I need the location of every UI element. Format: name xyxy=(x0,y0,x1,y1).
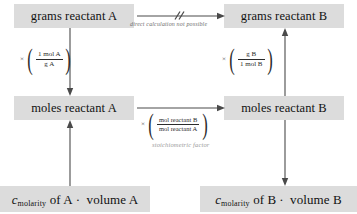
factor-stoichiometric-times: × xyxy=(141,120,145,128)
factor-molar-mass-b-numerator: g B xyxy=(244,50,258,59)
factor-stoichiometric-fraction: mol reactant B mol reactant A xyxy=(156,116,199,133)
arrow-moles-b-to-grams-b xyxy=(279,28,291,96)
factor-molar-mass-b-denominator: 1 mol B xyxy=(238,60,265,69)
node-concentration-b-expression: cmolarity of B· volume B xyxy=(215,193,342,206)
right-paren-icon: ) xyxy=(267,50,273,69)
concentration-b-operator: · xyxy=(279,192,283,207)
node-moles-reactant-a-label: moles reactant A xyxy=(31,102,117,115)
factor-molar-mass-b: × ( g B 1 mol B ) xyxy=(222,50,275,69)
concentration-a-subscript: molarity xyxy=(18,199,47,208)
stoichiometry-flowchart: grams reactant A grams reactant B moles … xyxy=(0,0,357,214)
left-paren-icon: ( xyxy=(28,50,34,69)
factor-molar-mass-a-denominator: g A xyxy=(42,60,56,69)
node-moles-reactant-b-label: moles reactant B xyxy=(241,102,327,115)
arrow-moles-b-to-concentration-b xyxy=(279,120,291,186)
factor-molar-mass-a-numerator: 1 mol A xyxy=(36,50,63,59)
node-concentration-a-expression: cmolarity of A· volume A xyxy=(12,193,139,206)
factor-stoichiometric-numerator: mol reactant B xyxy=(157,116,199,124)
annotation-stoichiometric-factor: stoichiometric factor xyxy=(152,141,210,148)
factor-molar-mass-a: × ( 1 mol A g A ) xyxy=(20,50,73,69)
concentration-a-operator: · xyxy=(76,192,80,207)
node-grams-reactant-a: grams reactant A xyxy=(14,4,134,28)
node-grams-reactant-b: grams reactant B xyxy=(224,4,344,28)
left-paren-icon: ( xyxy=(230,50,236,69)
concentration-a-factor: volume A xyxy=(87,192,139,207)
node-moles-reactant-b: moles reactant B xyxy=(224,96,344,120)
factor-stoichiometric-denominator: mol reactant A xyxy=(157,125,199,133)
node-concentration-a: cmolarity of A· volume A xyxy=(0,186,150,212)
factor-molar-mass-a-times: × xyxy=(20,55,24,63)
factor-stoichiometric: × ( mol reactant B mol reactant A ) xyxy=(141,115,210,134)
concentration-b-factor: volume B xyxy=(290,192,342,207)
concentration-a-rest: of A xyxy=(50,192,73,207)
node-grams-reactant-a-label: grams reactant A xyxy=(31,10,117,23)
node-moles-reactant-a: moles reactant A xyxy=(14,96,134,120)
annotation-direct-calculation-not-possible: direct calculation not possible xyxy=(130,21,207,27)
right-paren-icon: ) xyxy=(65,50,71,69)
right-paren-icon: ) xyxy=(202,115,208,134)
factor-molar-mass-b-times: × xyxy=(222,55,226,63)
concentration-b-rest: of B xyxy=(253,192,276,207)
arrow-concentration-a-to-moles-a xyxy=(64,120,76,186)
factor-molar-mass-b-fraction: g B 1 mol B xyxy=(237,50,265,68)
factor-molar-mass-a-fraction: 1 mol A g A xyxy=(35,50,63,68)
node-grams-reactant-b-label: grams reactant B xyxy=(241,10,327,23)
concentration-a-symbol: c xyxy=(12,192,18,207)
concentration-b-subscript: molarity xyxy=(221,199,250,208)
left-paren-icon: ( xyxy=(149,115,155,134)
node-concentration-b: cmolarity of B· volume B xyxy=(200,186,357,212)
